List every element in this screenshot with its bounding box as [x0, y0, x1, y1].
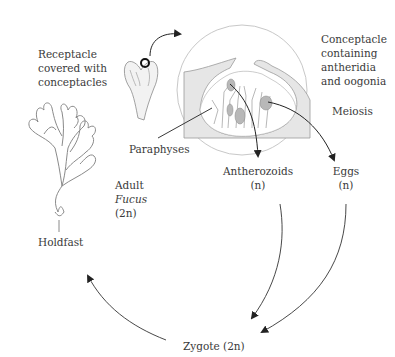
receptacle-to-conceptacle-arrow [150, 34, 180, 56]
receptacle-label-line: conceptacles [38, 75, 107, 89]
antherozoids-label: Antherozoids (n) [220, 164, 296, 192]
conceptacle-label-line: Conceptacle [321, 32, 387, 46]
adult-fucus-thallus-icon [29, 103, 96, 216]
conceptacle-section-icon [177, 25, 310, 155]
eggs-name: Eggs [326, 164, 366, 178]
zygote-label: Zygote (2n) [183, 339, 245, 353]
meiosis-label: Meiosis [332, 104, 373, 118]
adult-fucus-label: Adult Fucus (2n) [115, 178, 147, 220]
adult-genus-label: Fucus [115, 192, 147, 206]
adult-label-line: Adult [115, 178, 147, 192]
receptacle-label-line: Receptacle [38, 47, 107, 61]
receptacle-label-line: covered with [38, 61, 107, 75]
conceptacle-label-line: antheridia [321, 60, 387, 74]
antherozoids-ploidy: (n) [220, 178, 296, 192]
antherozoids-name: Antherozoids [220, 164, 296, 178]
antherozoids-to-zygote-arrow [252, 204, 282, 318]
receptacle-label: Receptacle covered with conceptacles [38, 47, 107, 89]
conceptacle-label-line: and oogonia [321, 74, 387, 88]
eggs-to-zygote-arrow [262, 204, 346, 332]
zygote-to-adult-arrow [88, 276, 166, 340]
paraphyses-label: Paraphyses [129, 142, 190, 156]
conceptacle-label-line: containing [321, 46, 387, 60]
conceptacle-label: Conceptacle containing antheridia and oo… [321, 32, 387, 88]
receptacle-icon [124, 59, 157, 120]
eggs-label: Eggs (n) [326, 164, 366, 192]
eggs-ploidy: (n) [326, 178, 366, 192]
adult-ploidy-label: (2n) [115, 206, 147, 220]
holdfast-label: Holdfast [38, 235, 83, 249]
